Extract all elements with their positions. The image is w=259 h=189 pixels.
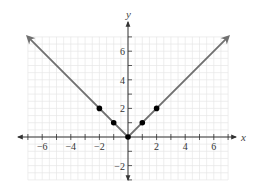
y-axis-label: y (125, 8, 131, 20)
x-axis-label: x (240, 131, 246, 143)
graph-figure: −6−4−2246−2246 x y (0, 0, 259, 189)
data-point (140, 120, 146, 126)
coordinate-plane: −6−4−2246−2246 x y (0, 0, 259, 189)
data-point (125, 134, 131, 140)
y-tick-label: 4 (120, 75, 125, 86)
y-tick-label: −2 (114, 161, 125, 172)
x-tick-label: 4 (183, 141, 188, 152)
data-point (97, 106, 103, 112)
data-point (111, 120, 117, 126)
x-tick-label: −2 (94, 141, 105, 152)
x-tick-label: −6 (37, 141, 48, 152)
y-tick-label: 6 (120, 46, 125, 57)
x-tick-label: 2 (154, 141, 159, 152)
y-tick-label: 2 (120, 103, 125, 114)
x-tick-label: −4 (65, 141, 76, 152)
x-tick-label: 6 (211, 141, 216, 152)
data-point (154, 106, 160, 112)
